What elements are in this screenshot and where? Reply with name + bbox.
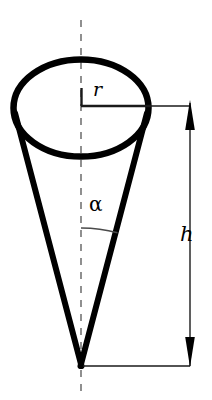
height-label: h [180,224,194,245]
half-apex-angle-label: α [89,194,103,214]
half-apex-angle-arc [81,228,118,233]
cone-figure: r α h [0,0,212,400]
height-arrowhead-down-icon [185,337,195,367]
height-arrowhead-up-icon [185,100,195,130]
cone-diagram-svg [0,0,212,400]
radius-label: r [93,80,102,99]
